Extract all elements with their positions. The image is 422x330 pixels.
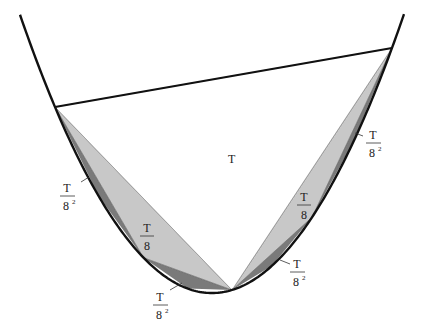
svg-text:T: T xyxy=(300,190,308,204)
svg-text:T: T xyxy=(156,290,164,304)
svg-text:T: T xyxy=(63,181,71,195)
svg-text:8: 8 xyxy=(63,199,69,213)
svg-text:8: 8 xyxy=(293,275,299,289)
svg-text:2: 2 xyxy=(165,307,169,315)
svg-text:2: 2 xyxy=(72,198,76,206)
svg-text:8: 8 xyxy=(301,208,307,222)
svg-text:T: T xyxy=(293,257,301,271)
parabola-diagram: T T 8 2 T 8 T 8 2 T 8 T 8 2 T 8 2 xyxy=(0,0,422,330)
label-right-upper-level2: T 8 2 xyxy=(366,128,382,160)
svg-text:T: T xyxy=(143,221,151,235)
svg-text:T: T xyxy=(369,128,377,142)
label-left-lower-level2: T 8 2 xyxy=(153,290,169,322)
label-right-lower-level2: T 8 2 xyxy=(290,257,306,289)
svg-text:8: 8 xyxy=(369,146,375,160)
svg-text:8: 8 xyxy=(156,308,162,322)
svg-text:2: 2 xyxy=(302,274,306,282)
label-main-T: T xyxy=(228,152,236,166)
label-left-upper-level2: T 8 2 xyxy=(60,181,76,213)
svg-text:8: 8 xyxy=(144,239,150,253)
svg-text:2: 2 xyxy=(378,145,382,153)
